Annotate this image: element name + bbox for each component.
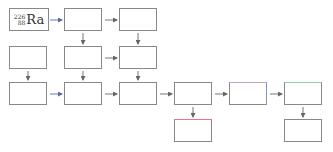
node-10-label: [230, 83, 266, 104]
node-5: [119, 46, 157, 69]
node-ra226-label: 226 88 Ra: [10, 9, 48, 30]
node-8: [119, 82, 157, 105]
node-4: [64, 46, 102, 69]
element-symbol: Ra: [26, 12, 44, 27]
node-12-label: [175, 120, 211, 141]
node-3: [9, 46, 47, 69]
node-7-label: [65, 83, 101, 104]
atomic-number: 88: [14, 20, 25, 26]
node-3-label: [10, 47, 46, 68]
node-1-label: [65, 9, 101, 30]
node-4-label: [65, 47, 101, 68]
node-5-label: [120, 47, 156, 68]
node-12: [174, 119, 212, 142]
node-13-label: [285, 120, 321, 141]
isotope-numbers: 226 88: [14, 14, 25, 26]
node-1: [64, 8, 102, 31]
node-8-label: [120, 83, 156, 104]
node-7: [64, 82, 102, 105]
node-9-label: [175, 83, 211, 104]
node-9: [174, 82, 212, 105]
node-10: [229, 82, 267, 105]
node-11: [284, 82, 322, 105]
node-13: [284, 119, 322, 142]
node-2: [119, 8, 157, 31]
node-6: [9, 82, 47, 105]
node-ra226: 226 88 Ra: [9, 8, 49, 31]
node-2-label: [120, 9, 156, 30]
node-6-label: [10, 83, 46, 104]
node-11-label: [285, 83, 321, 104]
